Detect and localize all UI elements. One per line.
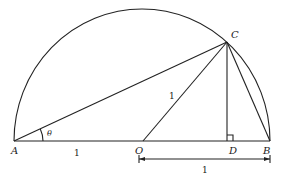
label-point-c: C	[231, 29, 239, 40]
geometry-diagram: A O D B C θ 1 1 1	[0, 0, 282, 178]
label-length-oc: 1	[169, 91, 175, 101]
segment-cb	[227, 42, 270, 141]
label-length-ao: 1	[74, 148, 80, 158]
dimension-arrow-left	[139, 157, 145, 161]
segment-oc	[143, 42, 227, 141]
label-point-b: B	[262, 145, 270, 156]
label-length-ob: 1	[202, 165, 208, 175]
segment-ac	[14, 42, 227, 141]
angle-arc-theta	[40, 129, 43, 141]
label-point-o: O	[135, 145, 143, 156]
right-angle-marker	[227, 135, 233, 141]
label-angle-theta: θ	[47, 129, 52, 138]
label-point-a: A	[10, 145, 18, 156]
label-point-d: D	[228, 145, 237, 156]
dimension-arrow-right	[264, 157, 270, 161]
